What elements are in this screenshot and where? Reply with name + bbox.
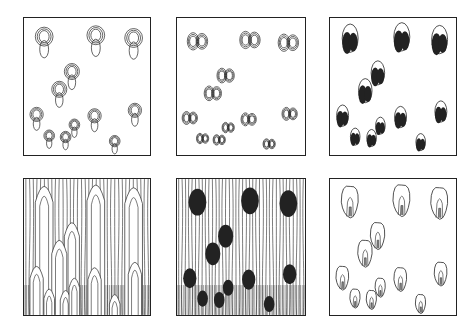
panel-top-middle: [176, 17, 306, 156]
field-line-blob-plot: [177, 179, 305, 315]
contour-plot: [177, 18, 305, 155]
contour-plot: [24, 18, 150, 155]
panel-bottom-middle: [176, 178, 306, 316]
filled-blob-plot: [330, 18, 456, 155]
panel-bottom-right: [329, 178, 457, 316]
panel-top-left: [23, 17, 151, 156]
panel-top-right: [329, 17, 457, 156]
field-line-plot: [24, 179, 150, 315]
panel-bottom-left: [23, 178, 151, 316]
teardrop-outline-plot: [330, 179, 456, 315]
